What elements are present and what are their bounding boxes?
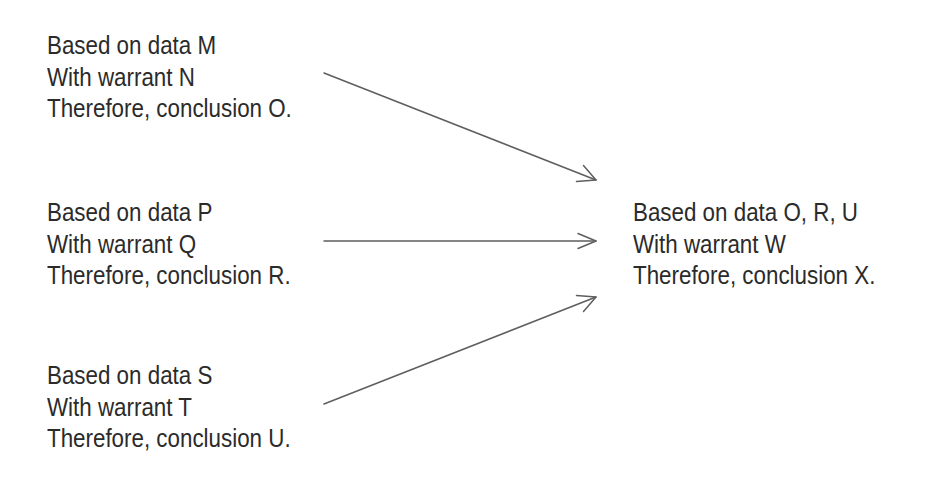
arrow-p-to-x [324,234,596,249]
argument-block-s: Based on data S With warrant T Therefore… [47,360,291,455]
warrant-line: With warrant T [47,392,291,424]
warrant-line: With warrant Q [47,229,291,261]
arrow-s-to-x [324,296,596,405]
argument-diagram: Based on data M With warrant N Therefore… [0,0,947,481]
argument-block-m: Based on data M With warrant N Therefore… [47,30,292,125]
data-line: Based on data M [47,30,292,62]
warrant-line: With warrant W [633,229,875,261]
warrant-line: With warrant N [47,62,292,94]
conclusion-line: Therefore, conclusion X. [633,260,875,292]
data-line: Based on data P [47,197,291,229]
conclusion-line: Therefore, conclusion O. [47,93,292,125]
final-argument-block: Based on data O, R, U With warrant W The… [633,197,875,292]
arrow-m-to-x [324,73,596,182]
conclusion-line: Therefore, conclusion R. [47,260,291,292]
conclusion-line: Therefore, conclusion U. [47,423,291,455]
data-line: Based on data S [47,360,291,392]
argument-block-p: Based on data P With warrant Q Therefore… [47,197,291,292]
data-line: Based on data O, R, U [633,197,875,229]
